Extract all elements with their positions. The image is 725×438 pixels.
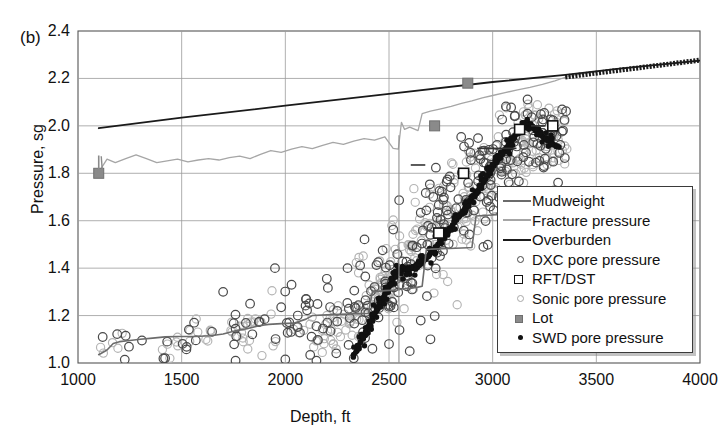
legend-item-fracture-pressure[interactable]: Fracture pressure [502, 211, 692, 231]
legend-glyph [514, 275, 523, 284]
y-tick-3: 1.6 [26, 212, 70, 230]
x-tick-4: 3000 [461, 371, 525, 389]
x-tick-5: 3500 [564, 371, 628, 389]
legend-item-swd-pore-pressure[interactable]: SWD pore pressure [502, 328, 692, 348]
open-square-icon [502, 271, 532, 287]
x-tick-0: 1000 [46, 371, 110, 389]
legend-line-swatch-icon [502, 193, 532, 209]
legend-item-label: SWD pore pressure [532, 330, 664, 345]
legend-item-label: Sonic pore pressure [532, 291, 666, 306]
y-tick-5: 2.0 [26, 117, 70, 135]
legend-item-label: Mudweight [532, 193, 605, 208]
legend-glyph [503, 200, 531, 202]
legend-glyph [517, 295, 524, 302]
y-tick-0: 1.0 [26, 354, 70, 372]
legend-glyph [517, 256, 524, 263]
x-tick-3: 2500 [357, 371, 421, 389]
figure-root: (b) Pressure, sg Depth, ft 1.01.21.41.61… [0, 0, 725, 438]
y-tick-7: 2.4 [26, 22, 70, 40]
y-tick-4: 1.8 [26, 164, 70, 182]
legend-item-overburden[interactable]: Overburden [502, 230, 692, 250]
legend-line-swatch-icon [502, 212, 532, 228]
legend-item-dxc-pore-pressure[interactable]: DXC pore pressure [502, 250, 692, 270]
legend-item-mudweight[interactable]: Mudweight [502, 191, 692, 211]
legend-item-label: Lot [532, 310, 553, 325]
legend-item-label: Overburden [532, 232, 611, 247]
y-tick-1: 1.2 [26, 307, 70, 325]
legend-glyph [503, 239, 531, 241]
y-tick-2: 1.4 [26, 259, 70, 277]
legend-line-swatch-icon [502, 232, 532, 248]
y-tick-6: 2.2 [26, 69, 70, 87]
legend-item-lot[interactable]: Lot [502, 308, 692, 328]
x-tick-1: 1500 [150, 371, 214, 389]
legend-item-label: DXC pore pressure [532, 252, 660, 267]
x-tick-2: 2000 [253, 371, 317, 389]
legend-item-rft-dst[interactable]: RFT/DST [502, 269, 692, 289]
legend-glyph [518, 335, 523, 340]
open-circle-light-icon [502, 290, 532, 306]
filled-square-icon [502, 310, 532, 326]
open-circle-icon [502, 251, 532, 267]
legend-glyph [515, 315, 523, 323]
legend-glyph [503, 219, 531, 221]
x-tick-6: 4000 [668, 371, 725, 389]
legend-item-label: RFT/DST [532, 271, 595, 286]
chart-legend[interactable]: MudweightFracture pressureOverburdenDXC … [497, 186, 693, 353]
filled-dot-icon [502, 329, 532, 345]
legend-item-label: Fracture pressure [532, 213, 650, 228]
legend-item-sonic-pore-pressure[interactable]: Sonic pore pressure [502, 289, 692, 309]
